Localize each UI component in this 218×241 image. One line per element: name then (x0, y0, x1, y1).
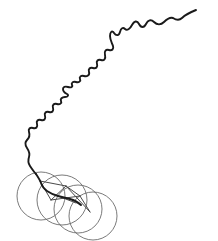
canvas-background (0, 0, 218, 241)
trajectory-sketch-svg (0, 0, 218, 241)
sketch-canvas (0, 0, 218, 241)
